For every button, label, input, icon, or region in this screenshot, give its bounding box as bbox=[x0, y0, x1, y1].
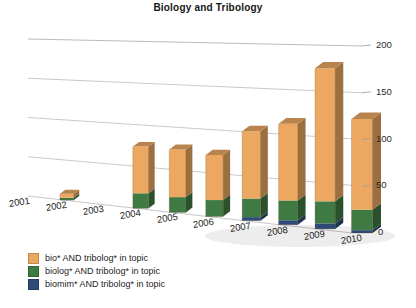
bar-segment-front-bio* bbox=[133, 147, 149, 194]
bar-segment-front-biolog* bbox=[206, 200, 223, 216]
bar-segment-front-bio* bbox=[169, 149, 186, 197]
y-axis-label-200: 200 bbox=[376, 39, 392, 50]
bar-segment-front-biolog* bbox=[169, 197, 186, 212]
legend-item-2[interactable]: biomim* AND tribolog* in topic bbox=[28, 278, 165, 290]
bar-segment-front-bio* bbox=[206, 155, 223, 200]
bar-series-group bbox=[60, 62, 381, 233]
bar-2009 bbox=[315, 62, 343, 229]
bar-segment-side bbox=[335, 62, 343, 201]
bar-segment-side bbox=[186, 145, 193, 198]
y-tick-mark bbox=[362, 45, 371, 46]
bar-segment-side bbox=[261, 126, 268, 199]
legend-swatch-icon bbox=[28, 253, 39, 264]
bar-segment-front-bio* bbox=[242, 131, 260, 198]
y-axis-label-150: 150 bbox=[376, 86, 392, 97]
bar-segment-front-biolog* bbox=[242, 199, 260, 218]
bar-segment-front-bio* bbox=[279, 124, 298, 201]
legend-swatch-icon bbox=[28, 279, 39, 290]
bar-segment-front-biolog* bbox=[279, 200, 298, 220]
legend-item-0[interactable]: bio* AND tribolog* in topic bbox=[28, 252, 165, 264]
bar-2005 bbox=[169, 145, 192, 213]
gridline bbox=[28, 78, 362, 93]
bar-2007 bbox=[242, 126, 268, 221]
chart-container: Biology and Tribology 050100150200 20012… bbox=[0, 0, 416, 308]
bar-segment-side bbox=[298, 118, 306, 200]
bar-segment-front-bio* bbox=[60, 194, 74, 198]
gridline bbox=[28, 157, 362, 187]
legend-item-label: biolog* AND tribolog* in topic bbox=[45, 266, 160, 277]
bar-2006 bbox=[206, 150, 230, 217]
bar-2010 bbox=[352, 113, 382, 233]
y-tick-mark bbox=[362, 92, 371, 93]
bar-segment-front-bio* bbox=[315, 68, 335, 201]
chart-legend: bio* AND tribolog* in topicbiolog* AND t… bbox=[28, 252, 165, 290]
bar-2004 bbox=[133, 142, 155, 208]
bar-segment-front-biolog* bbox=[315, 201, 335, 223]
legend-item-label: biomim* AND tribolog* in topic bbox=[45, 279, 165, 290]
bar-segment-front-biolog* bbox=[352, 210, 373, 231]
bar-segment-side bbox=[373, 113, 382, 210]
gridline bbox=[28, 118, 362, 140]
y-axis-label-100: 100 bbox=[376, 133, 392, 144]
y-axis-label-50: 50 bbox=[376, 179, 387, 190]
y-axis-label-0: 0 bbox=[378, 226, 383, 237]
bar-segment-side bbox=[223, 150, 230, 200]
bar-2008 bbox=[279, 118, 306, 225]
bar-segment-side bbox=[149, 142, 155, 193]
legend-swatch-icon bbox=[28, 266, 39, 277]
legend-item-1[interactable]: biolog* AND tribolog* in topic bbox=[28, 265, 165, 277]
bar-segment-front-biolog* bbox=[133, 193, 149, 208]
gridline bbox=[28, 39, 362, 46]
legend-item-label: bio* AND tribolog* in topic bbox=[45, 253, 148, 264]
bar-segment-front-bio* bbox=[352, 119, 373, 210]
